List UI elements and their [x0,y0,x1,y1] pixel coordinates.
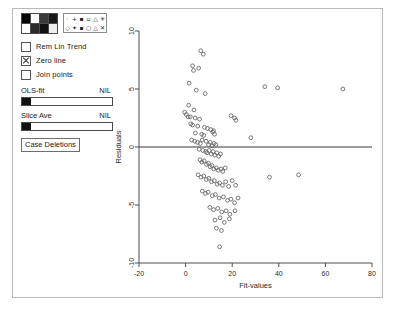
data-point [187,103,191,107]
symbol-swatch-1[interactable]: + [71,14,78,23]
data-point [200,138,204,142]
case-deletions-button[interactable]: Case Deletions [21,138,80,152]
data-point [230,179,234,183]
symbol-palette[interactable]: ·+▪▫△✳◇✦▪○△✕ [63,13,107,33]
color-swatch-3[interactable] [49,14,57,23]
data-point [276,86,280,90]
residual-plot-window: ·+▪▫△✳◇✦▪○△✕ Rem Lin Trend Zero line Joi… [12,8,383,298]
data-point [213,218,217,222]
data-point [224,180,228,184]
data-point [217,196,221,200]
data-point [203,92,207,96]
data-point [196,124,200,128]
slider-label-slice-ave: Slice Ave [21,111,52,120]
symbol-swatch-0[interactable]: · [64,14,71,23]
y-tick-label: 10 [128,27,135,35]
slider-header-ols-fit: OLS-fit NIL [21,86,113,95]
symbol-swatch-5[interactable]: ✳ [99,14,106,23]
data-point [194,88,198,92]
plot-svg: -10-50510-20020406080Fit-valuesResiduals [113,19,377,291]
data-point [297,173,301,177]
slider-track-ols-fit[interactable] [21,97,113,106]
x-axis-title: Fit-values [239,281,272,290]
checkbox-zero-line[interactable]: Zero line [21,54,113,67]
symbol-swatch-2[interactable]: ▪ [78,14,85,23]
checkbox-label-zero-line: Zero line [36,56,66,65]
x-tick-label: 80 [368,270,376,277]
slider-ols-fit: OLS-fit NIL [21,86,113,106]
checkbox-label-join-points: Join points [36,70,73,79]
symbol-swatch-6[interactable]: ◇ [64,23,71,32]
symbol-swatch-8[interactable]: ▪ [78,23,85,32]
checkbox-join-points[interactable]: Join points [21,68,113,81]
data-point [214,226,218,230]
data-point [221,183,225,187]
data-point [201,52,205,56]
checkbox-label-rem-lin-trend: Rem Lin Trend [36,42,87,51]
data-point [187,81,191,85]
x-tick-label: 0 [184,270,188,277]
x-tick-label: 20 [228,270,236,277]
slider-label-ols-fit: OLS-fit [21,86,44,95]
slider-thumb-ols-fit[interactable] [22,98,31,105]
data-point [197,66,201,70]
y-axis-title: Residuals [114,130,123,163]
data-point [228,212,232,216]
data-point [220,229,224,233]
data-point [249,136,253,140]
data-point [193,116,197,120]
control-panel: ·+▪▫△✳◇✦▪○△✕ Rem Lin Trend Zero line Joi… [21,13,113,152]
data-point [191,64,195,68]
data-point [341,87,345,91]
color-swatch-5[interactable] [31,24,39,33]
slider-track-slice-ave[interactable] [21,122,113,131]
data-point [197,147,201,151]
symbol-swatch-11[interactable]: ✕ [99,23,106,32]
data-point [233,201,237,205]
color-swatch-2[interactable] [40,14,48,23]
checkbox-box-zero-line[interactable] [21,56,31,66]
color-swatch-1[interactable] [31,14,39,23]
slider-value-slice-ave: NIL [99,111,111,120]
data-point [263,85,267,89]
checkbox-rem-lin-trend[interactable]: Rem Lin Trend [21,40,113,53]
slider-thumb-slice-ave[interactable] [22,123,31,130]
data-point [229,114,233,118]
color-swatch-6[interactable] [40,24,48,33]
symbol-swatch-4[interactable]: △ [92,14,99,23]
data-point [218,216,222,220]
data-point [193,131,197,135]
data-point [208,205,212,209]
color-swatch-4[interactable] [22,24,30,33]
x-tick-label: 60 [322,270,330,277]
symbol-swatch-3[interactable]: ▫ [85,14,92,23]
symbol-swatch-9[interactable]: ○ [85,23,92,32]
color-palette[interactable] [21,13,58,34]
data-point [227,185,231,189]
slider-slice-ave: Slice Ave NIL [21,111,113,131]
data-point [216,207,220,211]
data-point [233,209,237,213]
data-point [204,139,208,143]
data-point [199,49,203,53]
checkbox-box-rem-lin-trend[interactable] [21,42,31,52]
data-point [228,217,232,221]
data-point [192,108,196,112]
data-point [221,195,225,199]
x-tick-label: -20 [134,270,144,277]
scatter-plot: -10-50510-20020406080Fit-valuesResiduals [113,19,377,291]
x-tick-label: 40 [275,270,283,277]
y-tick-label: -10 [128,258,135,268]
palette-row: ·+▪▫△✳◇✦▪○△✕ [21,13,113,34]
color-swatch-7[interactable] [49,24,57,33]
data-point [222,221,226,225]
slider-header-slice-ave: Slice Ave NIL [21,111,113,120]
symbol-swatch-7[interactable]: ✦ [71,23,78,32]
checkbox-box-join-points[interactable] [21,70,31,80]
color-swatch-0[interactable] [22,14,30,23]
symbol-swatch-10[interactable]: △ [92,23,99,32]
data-point [268,175,272,179]
data-point [236,196,240,200]
data-point [198,117,202,121]
y-tick-label: -5 [128,202,135,208]
